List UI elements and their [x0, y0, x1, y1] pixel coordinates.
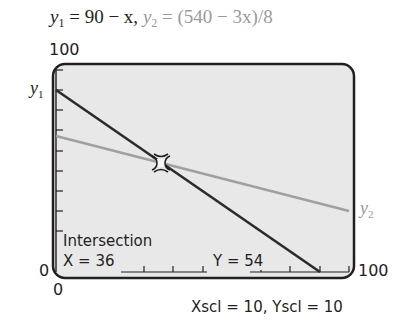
- y-readout: Y = 54: [212, 252, 264, 270]
- mode-title: Intersection: [62, 232, 153, 250]
- scale-note: Xscl = 10, Yscl = 10: [191, 298, 343, 316]
- calculator-screen: [0, 0, 411, 333]
- x-readout: X = 36: [62, 252, 115, 270]
